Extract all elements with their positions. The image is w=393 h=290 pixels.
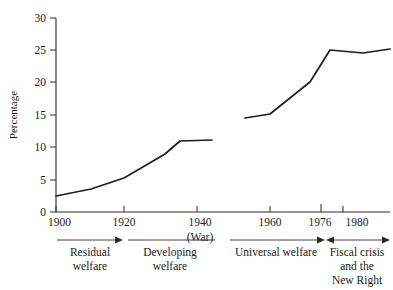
period-label-fiscal-crisis-line2: and the	[340, 260, 374, 272]
chart-container: 30 25 20 15 10 5 0 Percentage 1900 1920 …	[0, 0, 393, 290]
x-tick-label-1976: 1976	[309, 216, 332, 228]
x-tick-label-1980: 1980	[346, 216, 369, 228]
y-tick-marks	[50, 18, 56, 212]
data-line-prewar	[56, 140, 212, 196]
x-tick-annotation-war: (War)	[187, 231, 214, 244]
x-tick-label-1960: 1960	[259, 216, 282, 228]
period-label-residual-welfare-line1: Residual	[70, 246, 110, 258]
period-label-universal-welfare-line1: Universal welfare	[235, 246, 317, 258]
period-label-developing-welfare-line1: Developing	[143, 246, 197, 259]
y-tick-label-5: 5	[40, 174, 46, 186]
period-label-developing-welfare-line2: welfare	[153, 260, 187, 272]
period-label-fiscal-crisis-line1: Fiscal crisis	[330, 246, 385, 258]
y-tick-label-30: 30	[35, 12, 47, 24]
x-tick-label-1920: 1920	[113, 216, 136, 228]
period-bracket-fiscal-crisis	[326, 237, 390, 244]
data-line-postwar	[245, 49, 390, 118]
y-tick-label-20: 20	[35, 76, 47, 88]
x-tick-label-1900: 1900	[48, 216, 71, 228]
period-label-fiscal-crisis-line3: New Right	[332, 274, 383, 287]
y-tick-label-15: 15	[35, 109, 47, 121]
y-tick-label-10: 10	[35, 141, 47, 153]
y-axis-title: Percentage	[7, 91, 19, 139]
period-bracket-universal-welfare	[230, 237, 325, 244]
period-bracket-residual-welfare	[57, 237, 123, 244]
line-chart: 30 25 20 15 10 5 0 Percentage 1900 1920 …	[0, 0, 393, 290]
period-label-residual-welfare-line2: welfare	[73, 260, 107, 272]
y-tick-label-25: 25	[35, 44, 47, 56]
y-tick-label-0: 0	[40, 206, 46, 218]
x-tick-marks	[56, 204, 343, 212]
x-tick-label-1940: 1940	[189, 216, 212, 228]
